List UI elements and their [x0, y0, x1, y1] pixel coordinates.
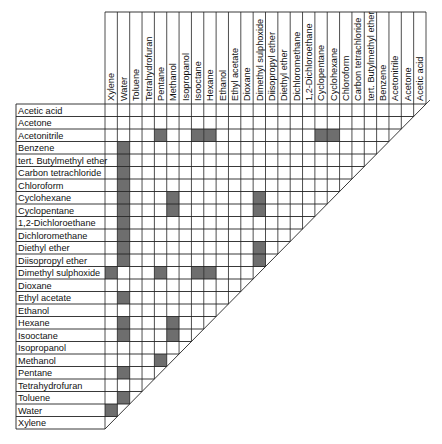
immiscible-cell — [315, 129, 327, 142]
immiscible-cell — [204, 129, 216, 142]
row-header: Diisopropyl ether — [18, 256, 87, 266]
row-header: Isooctane — [18, 331, 58, 341]
row-header: Tetrahydrofuran — [18, 381, 82, 391]
immiscible-cell — [105, 404, 117, 417]
column-header: Diethyl ether — [279, 49, 289, 101]
immiscible-cell — [191, 129, 203, 142]
immiscible-cell — [204, 267, 216, 280]
immiscible-cell — [105, 267, 117, 280]
immiscible-cell — [117, 254, 129, 267]
column-header: Cyclohexane — [329, 48, 339, 101]
miscibility-chart: XyleneWaterTolueneTetrahydrofuranPentane… — [0, 0, 442, 444]
column-header: Ethyl acetate — [230, 48, 240, 101]
row-header: Dioxane — [18, 281, 52, 291]
immiscible-cell — [117, 229, 129, 242]
column-header: Tetrahydrofuran — [144, 37, 154, 101]
immiscible-cell — [117, 217, 129, 230]
column-header: Methanol — [168, 63, 178, 101]
row-header: Cyclohexane — [18, 193, 71, 203]
column-header: Toluene — [131, 69, 141, 101]
column-header: 1,2-Dichloroethane — [304, 23, 314, 101]
immiscible-cell — [117, 317, 129, 330]
immiscible-cell — [253, 192, 265, 205]
row-header: Dichloromethane — [18, 231, 87, 241]
column-header: Pentane — [156, 67, 166, 101]
immiscible-cell — [253, 204, 265, 217]
column-header: Dioxane — [242, 67, 252, 101]
row-header: Diethyl ether — [18, 243, 70, 253]
immiscible-cell — [117, 367, 129, 380]
row-header: Carbon tetrachloride — [18, 168, 101, 178]
column-header: Carbon tetrachloride — [353, 18, 363, 101]
immiscible-cell — [117, 242, 129, 255]
row-header: Benzene — [18, 143, 54, 153]
immiscible-cell — [167, 329, 179, 342]
row-header: Acetonitrile — [18, 131, 63, 141]
column-header: Ethanol — [218, 70, 228, 101]
immiscible-cell — [154, 354, 166, 367]
column-header: Isooctane — [193, 61, 203, 101]
column-header: Cyclopentane — [316, 45, 326, 101]
column-header: Isopropanol — [181, 53, 191, 101]
immiscible-cell — [327, 129, 339, 142]
immiscible-cell — [117, 154, 129, 167]
immiscible-cell — [117, 142, 129, 155]
column-header: Acetonitrile — [390, 56, 400, 101]
column-header: Dichloromethane — [292, 32, 302, 101]
row-header: Cyclopentane — [18, 206, 74, 216]
shaded-cells — [105, 129, 340, 417]
immiscible-cell — [191, 267, 203, 280]
row-header: Ethanol — [18, 306, 49, 316]
row-header: Methanol — [18, 356, 56, 366]
row-header: Isopropanol — [18, 343, 66, 353]
immiscible-cell — [167, 204, 179, 217]
column-header: Chloroform — [341, 55, 351, 101]
column-header: Diisopropyl ether — [267, 32, 277, 101]
immiscible-cell — [154, 267, 166, 280]
immiscible-cell — [154, 129, 166, 142]
immiscible-cell — [117, 167, 129, 180]
column-header: Acetic acid — [415, 57, 425, 101]
immiscible-cell — [117, 392, 129, 405]
row-header: tert. Butylmethyl ether — [18, 156, 107, 166]
immiscible-cell — [117, 179, 129, 192]
immiscible-cell — [253, 242, 265, 255]
row-header: 1,2-Dichloroethane — [18, 218, 96, 228]
row-header: Xylene — [18, 418, 46, 428]
column-header: Acetone — [403, 67, 413, 101]
row-header: Hexane — [18, 318, 50, 328]
immiscible-cell — [117, 204, 129, 217]
row-header: Acetic acid — [18, 106, 62, 116]
immiscible-cell — [117, 329, 129, 342]
column-header: Xylene — [106, 73, 116, 101]
immiscible-cell — [167, 192, 179, 205]
immiscible-cell — [253, 254, 265, 267]
row-header: Chloroform — [18, 181, 64, 191]
row-header: Water — [18, 406, 42, 416]
row-header: Pentane — [18, 368, 52, 378]
row-header: Dimethyl sulphoxide — [18, 268, 100, 278]
column-header: Water — [119, 77, 129, 101]
immiscible-cell — [117, 292, 129, 305]
grid-line — [426, 100, 430, 104]
column-header: Hexane — [205, 69, 215, 101]
immiscible-cell — [167, 317, 179, 330]
column-header: tert. Butylmethyl ether — [366, 12, 376, 101]
row-header: Ethyl acetate — [18, 293, 71, 303]
column-header: Benzene — [378, 65, 388, 101]
column-header: Dimethyl sulphoxide — [255, 19, 265, 101]
row-header: Acetone — [18, 118, 52, 128]
immiscible-cell — [117, 192, 129, 205]
row-header: Toluene — [18, 393, 50, 403]
